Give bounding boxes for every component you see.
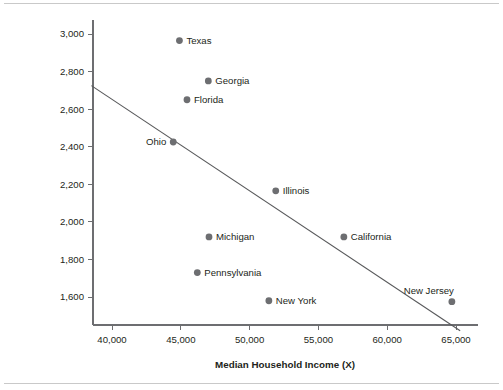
data-point-label-florida: Florida [194, 94, 224, 105]
y-tick-label: 2,800 [60, 66, 84, 77]
data-point-pennsylvania[interactable] [194, 269, 201, 276]
data-point-label-california: California [351, 231, 392, 242]
data-points-group: TexasGeorgiaFloridaOhioIllinoisMichiganC… [146, 35, 455, 306]
y-tick-label: 2,400 [60, 141, 84, 152]
x-tick-label: 55,000 [304, 334, 333, 345]
data-point-label-georgia: Georgia [215, 75, 250, 86]
y-tick-label: 2,600 [60, 104, 84, 115]
data-point-label-michigan: Michigan [216, 231, 254, 242]
x-tick-label: 65,000 [441, 334, 470, 345]
data-point-label-illinois: Illinois [283, 185, 310, 196]
figure-container: 1,6001,8002,0002,2002,4002,6002,8003,000… [0, 0, 503, 390]
y-tick-label: 1,600 [60, 291, 84, 302]
data-point-california[interactable] [340, 233, 347, 240]
x-axis-title: Median Household Income (X) [215, 359, 355, 370]
x-tick-label: 50,000 [235, 334, 264, 345]
x-axis-ticks: 40,00045,00050,00055,00060,00065,000 [97, 325, 470, 345]
y-tick-label: 1,800 [60, 254, 84, 265]
data-point-new-york[interactable] [265, 297, 272, 304]
x-tick-label: 60,000 [373, 334, 402, 345]
data-point-label-texas: Texas [186, 35, 211, 46]
y-axis-ticks: 1,6001,8002,0002,2002,4002,6002,8003,000 [60, 28, 93, 302]
data-point-ohio[interactable] [170, 139, 177, 146]
data-point-texas[interactable] [176, 37, 183, 44]
data-point-label-ohio: Ohio [146, 136, 166, 147]
y-tick-label: 3,000 [60, 28, 84, 39]
data-point-new-jersey[interactable] [448, 298, 455, 305]
data-point-florida[interactable] [184, 96, 191, 103]
data-point-label-new-jersey: New Jersey [404, 285, 454, 296]
x-tick-label: 45,000 [166, 334, 195, 345]
data-point-label-new-york: New York [276, 295, 317, 306]
y-tick-label: 2,200 [60, 179, 84, 190]
data-point-georgia[interactable] [205, 78, 212, 85]
data-point-michigan[interactable] [206, 233, 213, 240]
data-point-label-pennsylvania: Pennsylvania [204, 267, 262, 278]
data-point-illinois[interactable] [272, 187, 279, 194]
scatter-plot: 1,6001,8002,0002,2002,4002,6002,8003,000… [0, 0, 503, 390]
x-tick-label: 40,000 [97, 334, 126, 345]
y-tick-label: 2,000 [60, 216, 84, 227]
